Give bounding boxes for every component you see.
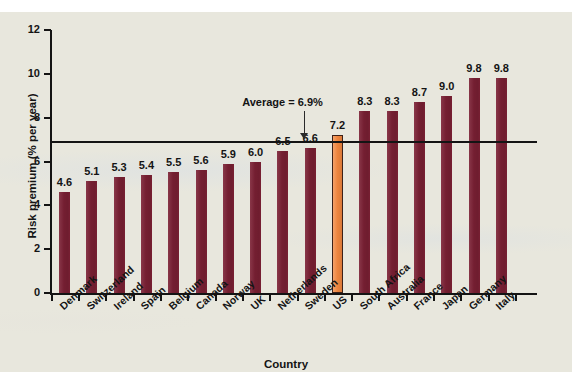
bar-value-italy: 9.8 [481, 62, 521, 74]
y-tick-label-12: 12 [14, 23, 40, 35]
bar-value-denmark: 4.6 [45, 176, 85, 188]
bar-france[interactable] [414, 102, 425, 293]
plot-area: 024681012 4.65.15.35.45.55.65.96.06.56.6… [0, 0, 572, 389]
y-tick-10 [44, 73, 51, 75]
bar-denmark[interactable] [59, 192, 70, 293]
bar-spain[interactable] [141, 175, 152, 293]
y-tick-0 [44, 292, 51, 294]
x-axis-title: Country [0, 358, 572, 370]
bar-netherlands[interactable] [277, 151, 288, 293]
bar-uk[interactable] [250, 162, 261, 294]
average-arrow-head [300, 133, 308, 139]
average-arrow-stem [304, 111, 305, 134]
y-tick-label-0: 0 [14, 286, 40, 298]
y-tick-8 [44, 117, 51, 119]
y-tick-6 [44, 161, 51, 163]
bar-italy[interactable] [496, 78, 507, 293]
x-label-us: US [330, 293, 349, 312]
x-tick-11 [351, 295, 353, 301]
y-axis-line [50, 30, 52, 295]
bar-australia[interactable] [387, 111, 398, 293]
bar-norway[interactable] [223, 164, 234, 293]
y-tick-12 [44, 29, 51, 31]
average-annotation-label: Average = 6.9% [242, 96, 323, 108]
bar-value-us: 7.2 [318, 119, 358, 131]
x-label-uk: UK [248, 293, 267, 312]
y-tick-4 [44, 204, 51, 206]
bar-south-africa[interactable] [359, 111, 370, 293]
y-tick-2 [44, 248, 51, 250]
bar-belgium[interactable] [168, 172, 179, 293]
average-reference-line [50, 141, 537, 143]
bar-germany[interactable] [469, 78, 480, 293]
bar-value-japan: 9.0 [427, 80, 467, 92]
bar-us[interactable] [332, 135, 343, 293]
bar-japan[interactable] [441, 96, 452, 293]
chart-figure: 024681012 4.65.15.35.45.55.65.96.06.56.6… [0, 0, 572, 389]
x-tick-0 [51, 295, 53, 301]
x-tick-8 [269, 295, 271, 301]
bar-value-uk: 6.0 [236, 146, 276, 158]
y-axis-title: Risk premium (% per year) [26, 56, 38, 276]
